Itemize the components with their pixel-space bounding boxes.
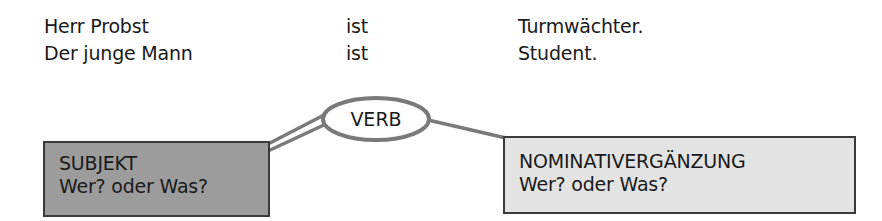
complement-connector-line — [428, 120, 506, 138]
complement-title: NOMINATIVERGÄNZUNG — [519, 150, 854, 173]
subject-question: Wer? oder Was? — [59, 175, 268, 198]
subject-box: SUBJEKT Wer? oder Was? — [43, 141, 270, 217]
complement-question: Wer? oder Was? — [519, 173, 854, 196]
verb-label: VERB — [322, 97, 430, 141]
subject-title: SUBJEKT — [59, 152, 268, 175]
nominative-complement-box: NOMINATIVERGÄNZUNG Wer? oder Was? — [503, 136, 856, 214]
